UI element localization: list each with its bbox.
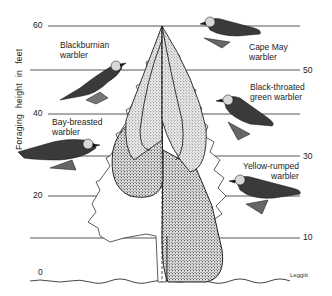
label-line: Black-throated [250,82,305,92]
tick-20: 20 [33,190,42,200]
axis-word: height [14,83,24,108]
axis-word: feet [14,48,24,63]
label-line: green warbler [250,92,305,102]
bird-blackburnian [60,61,126,104]
bird-bay-breasted [18,139,100,170]
label-line: warbler [60,50,109,60]
zone-upper-cone [126,26,162,160]
tick-60: 60 [33,20,42,30]
label-black-throated: Black-throated green warbler [250,82,305,102]
label-line: warbler [52,127,103,137]
illustrator-credit: Leggitt [290,272,308,278]
label-line: Blackburnian [60,40,109,50]
label-bay-breasted: Bay-breasted warbler [52,117,103,137]
label-yellow-rumped: Yellow-rumped warbler [243,161,299,181]
tick-0: 0 [38,267,43,277]
tick-30: 30 [303,151,312,161]
axis-word: in [14,70,24,77]
tick-40: 40 [33,108,42,118]
label-line: warbler [249,52,288,62]
warbler-foraging-diagram: Foragingheightinfeet 60 40 20 0 50 30 10… [0,0,332,296]
axis-word: Foraging [14,114,24,150]
label-cape-may: Cape May warbler [249,42,288,62]
tick-10: 10 [303,232,312,242]
label-line: Cape May [249,42,288,52]
y-axis-title: Foragingheightinfeet [14,42,24,150]
label-blackburnian: Blackburnian warbler [60,40,109,60]
label-line: warbler [243,171,299,181]
label-line: Yellow-rumped [243,161,299,171]
label-line: Bay-breasted [52,117,103,127]
tick-50: 50 [303,65,312,75]
